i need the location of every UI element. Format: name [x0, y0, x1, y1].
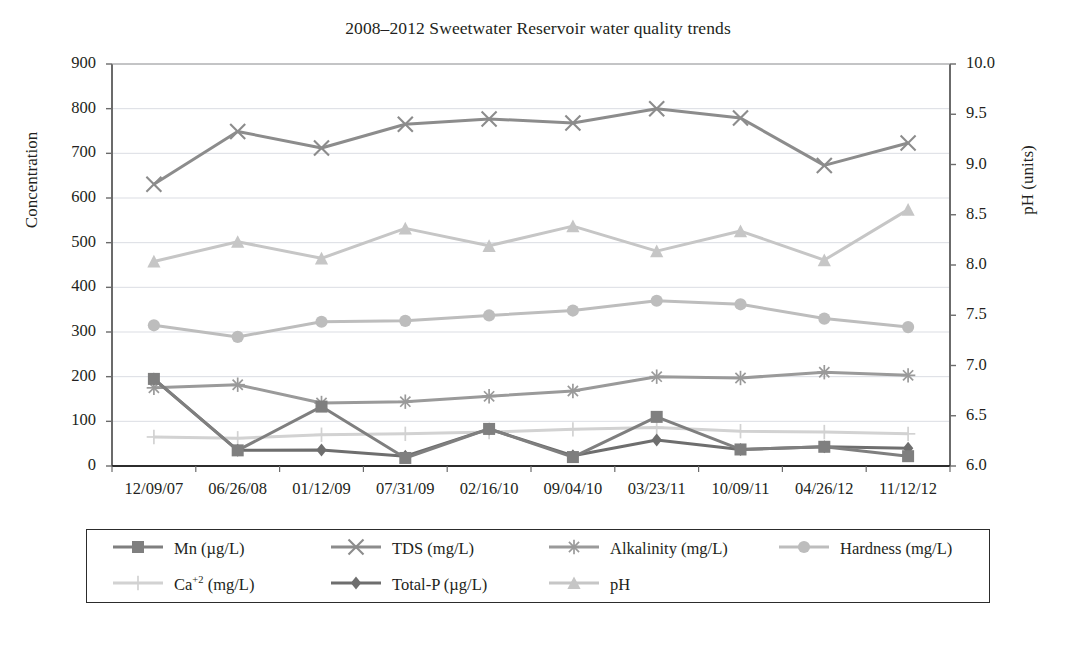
legend-marker-icon	[329, 572, 383, 598]
legend-symbol-circle	[777, 536, 831, 558]
data-point-marker	[901, 427, 915, 441]
data-point-marker	[566, 422, 580, 436]
data-point-marker	[147, 430, 161, 444]
legend-marker-icon	[329, 536, 383, 562]
legend-label: TDS (mg/L)	[392, 539, 474, 559]
data-point-marker	[148, 319, 160, 331]
data-point-marker	[818, 441, 830, 453]
data-point-marker	[131, 575, 145, 589]
series-ph	[147, 203, 914, 268]
legend-symbol-asterisk	[547, 536, 601, 558]
data-point-marker	[735, 443, 747, 455]
data-point-marker	[902, 450, 914, 462]
series-total-p-g-l	[149, 372, 914, 462]
legend-item[interactable]: pH	[547, 572, 630, 598]
legend-label: Alkalinity (mg/L)	[610, 539, 728, 559]
data-point-marker	[232, 331, 244, 343]
chart-legend: Mn (µg/L)TDS (mg/L)Alkalinity (mg/L)Hard…	[86, 529, 990, 603]
data-point-marker	[399, 452, 411, 464]
data-point-marker	[566, 384, 580, 398]
legend-item[interactable]: Hardness (mg/L)	[777, 536, 952, 562]
series-hardness-mg-l	[148, 295, 914, 343]
data-point-marker	[650, 369, 664, 383]
data-point-marker	[901, 368, 915, 382]
data-point-marker	[351, 576, 361, 589]
data-point-marker	[315, 316, 327, 328]
data-point-marker	[902, 203, 915, 216]
legend-symbol-plus	[111, 572, 165, 594]
legend-label: Mn (µg/L)	[174, 539, 244, 559]
legend-marker-icon	[111, 536, 165, 562]
series-alkalinity-mg-l	[147, 365, 916, 410]
legend-marker-icon	[547, 536, 601, 562]
legend-row-1: Mn (µg/L)TDS (mg/L)Alkalinity (mg/L)Hard…	[87, 530, 989, 567]
legend-symbol-diamond	[329, 572, 383, 594]
data-point-marker	[652, 434, 662, 447]
legend-item[interactable]: TDS (mg/L)	[329, 536, 474, 562]
data-point-marker	[818, 313, 830, 325]
data-point-marker	[146, 177, 161, 192]
series-line	[154, 109, 908, 184]
data-point-marker	[651, 295, 663, 307]
legend-item[interactable]: Ca+2 (mg/L)	[111, 572, 254, 598]
data-point-marker	[651, 411, 663, 423]
data-point-marker	[398, 394, 412, 408]
legend-label: Hardness (mg/L)	[840, 539, 952, 559]
legend-symbol-x	[329, 536, 383, 558]
legend-marker-icon	[547, 572, 601, 598]
series-tds-mg-l	[146, 101, 915, 191]
data-point-marker	[733, 424, 747, 438]
data-point-marker	[132, 541, 144, 553]
series-line	[154, 210, 908, 262]
legend-marker-icon	[777, 536, 831, 562]
data-point-marker	[734, 298, 746, 310]
legend-label: pH	[610, 575, 630, 595]
series-line	[154, 301, 908, 337]
data-point-marker	[733, 371, 747, 385]
data-point-marker	[567, 451, 579, 463]
data-point-marker	[902, 321, 914, 333]
legend-marker-icon	[111, 572, 165, 598]
data-point-marker	[316, 443, 326, 456]
data-point-marker	[567, 539, 581, 553]
legend-label: Total-P (µg/L)	[392, 575, 487, 595]
data-point-marker	[483, 423, 495, 435]
legend-symbol-square	[111, 536, 165, 558]
legend-symbol-triangle	[547, 572, 601, 594]
data-point-marker	[798, 540, 810, 552]
data-point-marker	[316, 401, 328, 413]
data-point-marker	[148, 373, 160, 385]
legend-item[interactable]: Total-P (µg/L)	[329, 572, 487, 598]
data-point-marker	[567, 304, 579, 316]
legend-label: Ca+2 (mg/L)	[174, 574, 254, 595]
legend-item[interactable]: Alkalinity (mg/L)	[547, 536, 728, 562]
data-point-marker	[817, 425, 831, 439]
data-point-marker	[482, 389, 496, 403]
data-point-marker	[231, 431, 245, 445]
data-point-marker	[232, 444, 244, 456]
data-point-marker	[398, 427, 412, 441]
data-point-marker	[817, 365, 831, 379]
legend-row-2: Ca+2 (mg/L)Total-P (µg/L)pH	[87, 566, 989, 603]
chart-container: 2008–2012 Sweetwater Reservoir water qua…	[0, 0, 1076, 652]
data-point-marker	[314, 428, 328, 442]
data-point-marker	[399, 315, 411, 327]
data-point-marker	[231, 378, 245, 392]
legend-item[interactable]: Mn (µg/L)	[111, 536, 244, 562]
data-point-marker	[483, 309, 495, 321]
